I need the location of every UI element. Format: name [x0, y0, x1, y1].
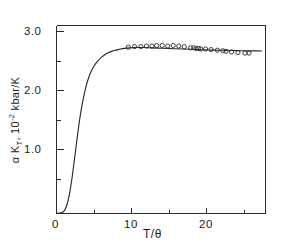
y-axis-units: kbar/K [9, 77, 21, 114]
y-axis-k: K [9, 146, 21, 154]
data-point [160, 43, 164, 47]
y-major-ticks [57, 32, 64, 150]
x-minor-ticks [95, 210, 245, 214]
x-tick-label-10: 10 [124, 218, 138, 230]
figure-container: 3.0 2.0 1.0 0 10 20 α KT, 10-2 kbar/K T/… [0, 0, 281, 252]
data-point [182, 45, 186, 49]
y-axis-title: α KT, 10-2 kbar/K [9, 77, 21, 163]
x-tick-label-20: 20 [199, 218, 213, 230]
theory-curve [57, 47, 262, 213]
data-point [203, 47, 207, 51]
y-axis-title-wrapper: α KT, 10-2 kbar/K [2, 50, 28, 190]
y-axis-k-subscript: T [15, 141, 24, 146]
y-axis-exponent: -2 [7, 114, 16, 121]
y-minor-ticks [57, 62, 61, 180]
data-point [171, 43, 175, 47]
axis-frame [57, 26, 266, 214]
y-tick-label-30: 3.0 [24, 25, 42, 37]
x-axis-title: T/θ [143, 227, 162, 241]
chart-canvas [0, 0, 281, 252]
data-point [166, 44, 170, 48]
data-point-markers [126, 43, 251, 55]
data-point [155, 43, 159, 47]
y-axis-alpha: α [9, 157, 21, 164]
data-point [177, 44, 181, 48]
data-point [139, 45, 143, 49]
x-tick-label-0: 0 [52, 218, 59, 230]
y-axis-comma-ten: , 10 [9, 121, 21, 141]
